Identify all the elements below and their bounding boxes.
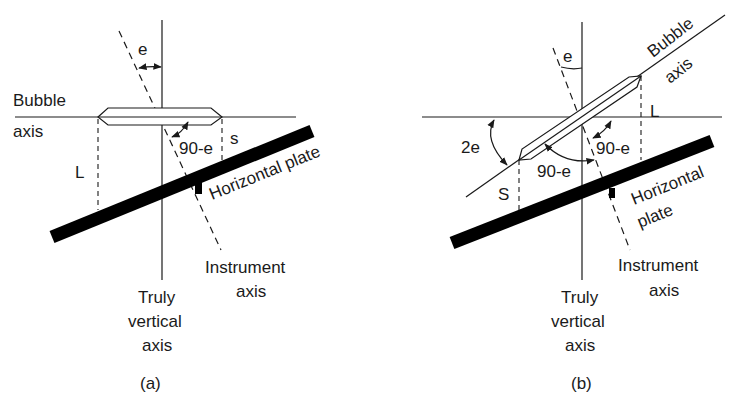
label-instrument-a: Instrument xyxy=(205,258,286,277)
angle-e-arrow-a xyxy=(139,67,161,68)
label-vertical-axis-a: axis xyxy=(142,336,172,355)
label-90-e-lower-b: 90-e xyxy=(537,162,571,181)
label-90-e-right-b: 90-e xyxy=(596,139,630,158)
angle-90-e-right-arrow-b xyxy=(593,121,611,138)
label-2e-b: 2e xyxy=(461,138,480,157)
plate-foot-b xyxy=(609,188,615,198)
label-s-a: s xyxy=(230,129,239,148)
label-L-b: L xyxy=(650,102,659,121)
label-truly-a: Truly xyxy=(138,288,176,307)
label-e-b: e xyxy=(563,47,572,66)
level-tube-adjustment-figure: e Bubble axis 90-e s L Horizontal plate … xyxy=(0,0,736,412)
label-90-e-a: 90-e xyxy=(179,139,213,158)
caption-b: (b) xyxy=(571,374,592,393)
label-vertical-axis-b: axis xyxy=(565,336,595,355)
diagram-a: e Bubble axis 90-e s L Horizontal plate … xyxy=(13,20,323,393)
angle-e-arc-b xyxy=(561,67,582,69)
label-L-a: L xyxy=(75,163,84,182)
angle-2e-arrow-b xyxy=(491,120,507,165)
caption-a: (a) xyxy=(140,374,161,393)
label-bubble-a: Bubble xyxy=(13,91,66,110)
label-instrument-b: Instrument xyxy=(618,256,699,275)
diagram-b: e Bubble axis L 2e 90-e 90-e S Horizonta… xyxy=(422,14,725,393)
label-vertical-b: vertical xyxy=(551,312,605,331)
label-instrument-axis-a: axis xyxy=(236,282,266,301)
label-axis-a: axis xyxy=(13,122,43,141)
label-S-b: S xyxy=(498,185,509,204)
label-axis-b: axis xyxy=(661,54,697,88)
angle-90-e-lower-arrow-b xyxy=(545,144,594,161)
label-vertical-a: vertical xyxy=(128,312,182,331)
plate-foot-a xyxy=(195,178,202,194)
label-truly-b: Truly xyxy=(561,288,599,307)
label-instrument-axis-b: axis xyxy=(649,281,679,300)
label-e-a: e xyxy=(138,40,147,59)
